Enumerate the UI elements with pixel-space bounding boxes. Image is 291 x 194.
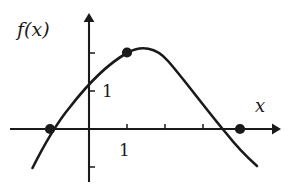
function-curve	[33, 48, 258, 168]
y-axis-arrowhead	[84, 13, 95, 22]
x-axis-arrowhead	[272, 124, 281, 135]
function-graph-figure: f(x) x 1 1	[0, 0, 291, 194]
y-axis-label: f(x)	[17, 20, 50, 39]
y-axis-group	[84, 13, 95, 182]
x-axis-tick-label-one: 1	[119, 142, 130, 159]
x-axis-label: x	[255, 97, 265, 115]
marked-point-on-curve	[122, 47, 132, 57]
y-axis-tick-label-one: 1	[102, 83, 113, 100]
marked-point-left-root	[45, 124, 55, 134]
marked-point-right-root	[235, 124, 245, 134]
